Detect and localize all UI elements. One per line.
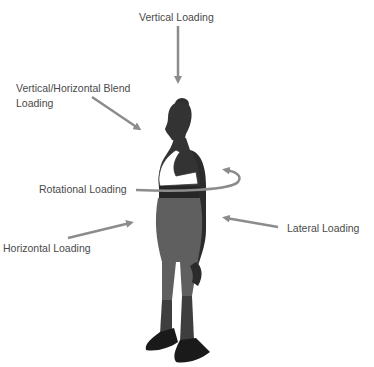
sock-right	[180, 296, 194, 342]
lateral-loading-label: Lateral Loading	[287, 221, 359, 236]
blend-loading-label-line2: Loading	[16, 96, 53, 111]
shoe-right	[174, 338, 210, 363]
lateral-arrow	[226, 218, 278, 227]
human-figure	[146, 98, 210, 363]
leggings	[156, 198, 202, 300]
vertical-loading-label: Vertical Loading	[139, 10, 214, 25]
blend-arrow	[92, 97, 138, 128]
head	[165, 102, 192, 142]
horizontal-loading-label: Horizontal Loading	[3, 241, 91, 256]
rotational-loading-label: Rotational Loading	[39, 182, 127, 197]
horizontal-arrow	[68, 223, 130, 238]
blend-loading-label-line1: Vertical/Horizontal Blend	[16, 81, 130, 96]
sock-left	[160, 300, 172, 334]
